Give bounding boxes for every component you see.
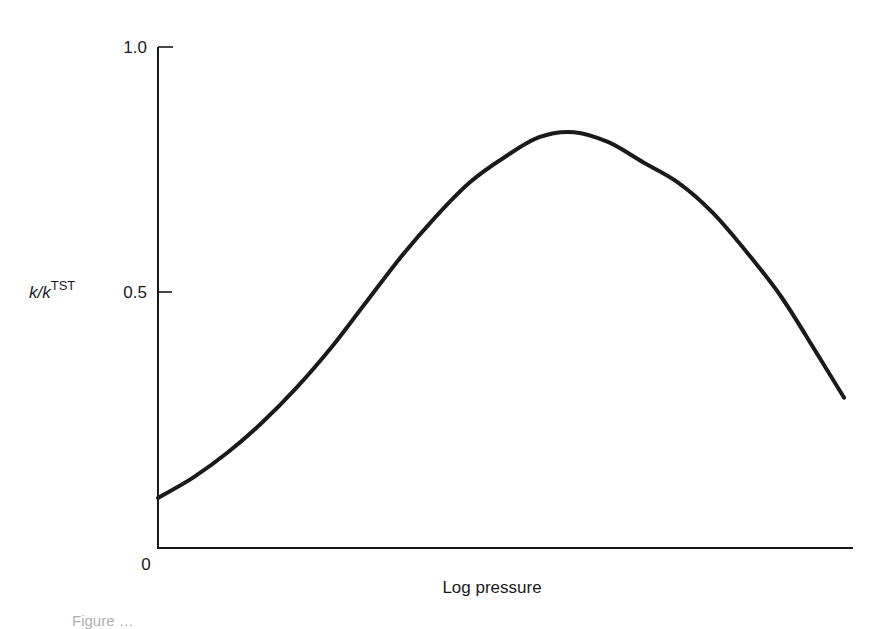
y-axis-label: k/kTST bbox=[29, 278, 75, 302]
data-curve bbox=[158, 132, 844, 498]
y-tick-label-0: 0 bbox=[141, 555, 150, 574]
y-axis-label-superscript: TST bbox=[51, 278, 76, 293]
y-axis-label-base: k/k bbox=[29, 283, 52, 302]
y-tick-label-0-5: 0.5 bbox=[123, 283, 147, 302]
y-tick-label-1-0: 1.0 bbox=[123, 38, 147, 57]
figure-caption: Figure … bbox=[72, 612, 134, 629]
x-axis-label: Log pressure bbox=[442, 578, 541, 597]
